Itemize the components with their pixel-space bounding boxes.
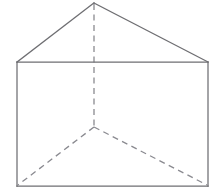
figure-background [0,0,217,194]
triangular-prism-figure [0,0,217,194]
prism-drawing-svg [0,0,217,194]
